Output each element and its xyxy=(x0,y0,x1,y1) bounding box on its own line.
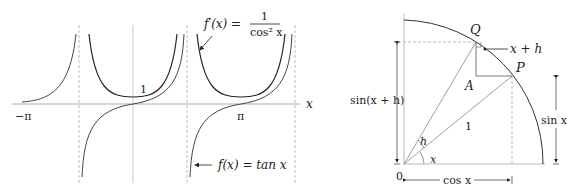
tick-neg-pi: −π xyxy=(15,110,31,123)
label-xh: x + h xyxy=(510,42,542,56)
radius-P xyxy=(404,76,512,164)
label-zero: 0 xyxy=(396,170,403,183)
label-P: P xyxy=(515,60,525,75)
label-sin-xh: sin(x + h) xyxy=(350,94,404,107)
deriv-den: cos² x xyxy=(250,26,283,39)
label-sin-x: sin x xyxy=(541,114,568,127)
label-cos-x: cos x xyxy=(443,174,472,187)
tan-branch-1 xyxy=(22,34,76,102)
tan-branch-3 xyxy=(190,34,292,177)
label-one: 1 xyxy=(465,120,472,133)
tick-pi: π xyxy=(237,110,244,123)
deriv-num: 1 xyxy=(261,10,268,23)
label-x: x xyxy=(430,153,437,166)
label-one: 1 xyxy=(140,83,147,96)
label-h: h xyxy=(420,135,427,148)
x-axis-label: x xyxy=(306,97,313,111)
tan-plot: x −π π 1 f′(x) = 1 cos² x f(x) = tan x xyxy=(12,10,313,183)
sec2-branch-2 xyxy=(197,34,285,97)
deriv-lhs: f′(x) = xyxy=(203,17,241,31)
deriv-arrow xyxy=(200,36,212,50)
figure: x −π π 1 f′(x) = 1 cos² x f(x) = tan x xyxy=(0,0,581,192)
func-label: f(x) = tan x xyxy=(217,158,287,172)
diagram-canvas: x −π π 1 f′(x) = 1 cos² x f(x) = tan x xyxy=(0,0,581,192)
radius-Q xyxy=(404,42,476,164)
unit-circle-diagram: sin(x + h) sin x cos x Q P A x + h 1 h x… xyxy=(350,14,574,187)
label-Q: Q xyxy=(470,22,481,37)
label-A: A xyxy=(464,79,474,93)
